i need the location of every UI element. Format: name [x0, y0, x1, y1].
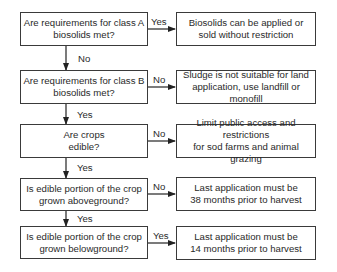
- edge-label-no: No: [153, 181, 165, 192]
- outcome-14-months: Last application must be14 months prior …: [176, 226, 316, 260]
- decision-text: Are requirements for class B: [23, 75, 144, 86]
- decision-text: biosolids met?: [53, 29, 114, 40]
- decision-class-b: Are requirements for class Bbiosolids me…: [20, 70, 148, 104]
- decision-text: biosolids met?: [53, 87, 114, 98]
- decision-text: grown belowground?: [39, 243, 128, 254]
- outcome-text: 38 months prior to harvest: [190, 194, 301, 205]
- decision-text: grown aboveground?: [39, 195, 129, 206]
- outcome-not-suitable: Sludge is not suitable for landapplicati…: [176, 70, 316, 104]
- decision-text: Is edible portion of the crop: [26, 231, 142, 242]
- decision-crops-edible: Are cropsedible?: [20, 124, 148, 158]
- outcome-text: for sod farms and animal grazing: [193, 141, 299, 164]
- outcome-text: 14 months prior to harvest: [190, 243, 301, 254]
- outcome-text: Limit public access and restrictions: [196, 117, 295, 140]
- decision-belowground: Is edible portion of the cropgrown below…: [20, 226, 148, 259]
- outcome-text: application, use landfill or monofill: [192, 81, 300, 104]
- outcome-text: Last application must be: [194, 182, 297, 193]
- decision-text: Is edible portion of the crop: [26, 183, 142, 194]
- outcome-limit-access: Limit public access and restrictionsfor …: [176, 124, 316, 158]
- edge-label-yes: Yes: [77, 213, 93, 224]
- decision-text: edible?: [69, 141, 100, 152]
- edge-label-yes: Yes: [77, 109, 93, 120]
- decision-class-a: Are requirements for class Abiosolids me…: [20, 12, 148, 46]
- edge-label-no: No: [153, 128, 165, 139]
- decision-aboveground: Is edible portion of the cropgrown above…: [20, 178, 148, 211]
- outcome-unrestricted: Biosolids can be applied orsold without …: [176, 12, 316, 46]
- decision-text: Are crops: [63, 129, 104, 140]
- edge-label-no: No: [153, 74, 165, 85]
- outcome-text: Last application must be: [194, 231, 297, 242]
- edge-label-yes: Yes: [77, 162, 93, 173]
- outcome-text: sold without restriction: [199, 29, 294, 40]
- edge-label-yes: Yes: [153, 230, 169, 241]
- edge-label-no: No: [78, 53, 90, 64]
- outcome-text: Sludge is not suitable for land: [183, 69, 309, 80]
- outcome-text: Biosolids can be applied or: [189, 17, 304, 28]
- outcome-38-months: Last application must be38 months prior …: [176, 177, 316, 211]
- decision-text: Are requirements for class A: [24, 17, 145, 28]
- edge-label-yes: Yes: [151, 16, 167, 27]
